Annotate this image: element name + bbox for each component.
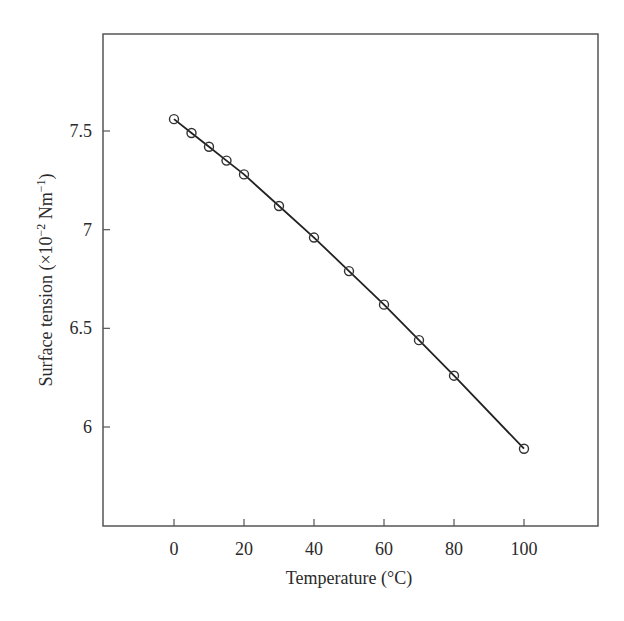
data-point-marker [222,156,231,165]
y-axis-label: Surface tension (×10−2 Nm−1) [34,173,57,386]
x-tick-label: 40 [305,539,323,559]
y-tick-label: 7.5 [70,121,93,141]
x-tick-label: 0 [170,539,179,559]
data-point-marker [380,300,389,309]
series-line [174,119,524,449]
y-tick-label: 6 [83,417,92,437]
data-point-marker [415,336,424,345]
data-point-marker [310,233,319,242]
x-tick-label: 80 [445,539,463,559]
x-axis-ticks: 020406080100 [170,519,538,559]
x-axis-label: Temperature (°C) [286,568,412,589]
chart: 020406080100 66.577.5 Temperature (°C) S… [0,0,624,621]
y-tick-label: 7 [83,220,92,240]
x-tick-label: 20 [235,539,253,559]
data-point-marker [187,128,196,137]
data-point-marker [205,142,214,151]
x-tick-label: 100 [511,539,538,559]
data-point-marker [345,267,354,276]
data-point-marker [520,444,529,453]
y-tick-label: 6.5 [70,318,93,338]
data-point-marker [450,371,459,380]
data-series [170,115,529,454]
y-axis-ticks: 66.577.5 [70,121,111,437]
x-tick-label: 60 [375,539,393,559]
data-point-marker [275,201,284,210]
data-point-marker [170,115,179,124]
data-point-marker [240,170,249,179]
